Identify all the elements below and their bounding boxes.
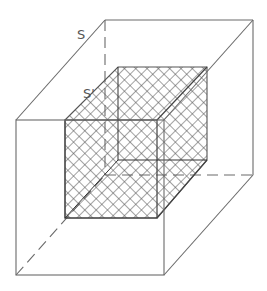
nested-cubes-diagram: S S' <box>0 0 267 291</box>
outer-cube-label: S <box>77 27 85 42</box>
inner-cube-label: S' <box>83 86 95 101</box>
